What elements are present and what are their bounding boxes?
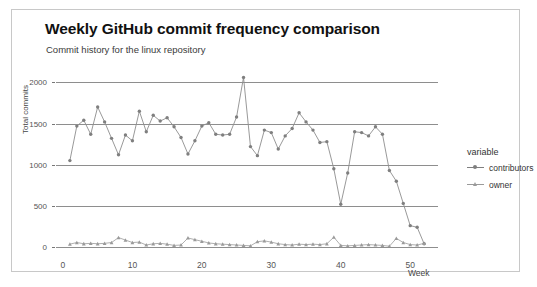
data-point	[290, 127, 293, 130]
data-point	[200, 124, 203, 127]
data-point	[221, 133, 224, 136]
data-point	[179, 136, 182, 139]
data-point	[353, 130, 356, 133]
data-point	[96, 105, 99, 108]
legend-entries: contributorsowner	[467, 163, 537, 190]
y-tick-1500: 1500	[29, 119, 47, 128]
x-tick-10: 10	[128, 260, 137, 270]
legend-marker	[473, 182, 477, 186]
series-line-owner	[70, 237, 424, 246]
series-line-contributors	[70, 77, 424, 243]
data-point	[89, 133, 92, 136]
y-tick-mark	[52, 206, 55, 207]
data-point	[75, 124, 78, 127]
data-point	[214, 133, 217, 136]
legend-item-contributors[interactable]: contributors	[467, 163, 537, 173]
legend-swatch-owner-icon	[467, 180, 484, 190]
data-point	[401, 241, 405, 245]
data-point	[415, 226, 418, 229]
data-point	[242, 76, 245, 79]
data-point	[367, 134, 370, 137]
legend-swatch-contributors-icon	[467, 163, 484, 173]
data-point	[152, 114, 155, 117]
chart-title: Weekly GitHub commit frequency compariso…	[45, 20, 380, 38]
data-point	[360, 131, 363, 134]
data-point	[381, 133, 384, 136]
y-axis-label: Total commits	[21, 70, 30, 150]
legend: variable contributorsowner	[467, 147, 537, 197]
data-point	[117, 153, 120, 156]
y-tick-2000: 2000	[29, 78, 47, 87]
data-point	[82, 119, 85, 122]
gridline	[56, 124, 438, 125]
data-point	[131, 139, 134, 142]
data-point	[145, 130, 148, 133]
data-point	[332, 167, 335, 170]
data-point	[256, 154, 259, 157]
series-lines	[56, 70, 438, 252]
x-tick-30: 30	[267, 260, 276, 270]
data-point	[346, 171, 349, 174]
gridline	[56, 165, 438, 166]
data-point	[394, 237, 398, 241]
legend-marker	[473, 165, 477, 169]
y-tick-mark	[52, 247, 55, 248]
data-point	[193, 139, 196, 142]
data-point	[249, 145, 252, 148]
data-point	[277, 147, 280, 150]
data-point	[318, 141, 321, 144]
data-point	[297, 111, 300, 114]
y-tick-1000: 1000	[29, 160, 47, 169]
y-tick-0: 0	[43, 243, 47, 252]
data-point	[138, 109, 141, 112]
data-point	[172, 125, 175, 128]
data-point	[186, 152, 189, 155]
legend-item-owner[interactable]: owner	[467, 180, 537, 190]
data-point	[263, 128, 266, 131]
y-tick-mark	[52, 124, 55, 125]
data-point	[110, 137, 113, 140]
y-tick-mark	[52, 165, 55, 166]
data-point	[402, 202, 405, 205]
data-point	[228, 133, 231, 136]
data-point	[284, 134, 287, 137]
data-point	[395, 179, 398, 182]
chart-subtitle: Commit history for the linux repository	[46, 44, 205, 55]
x-tick-20: 20	[197, 260, 206, 270]
y-tick-500: 500	[34, 201, 47, 210]
data-point	[409, 224, 412, 227]
data-point	[374, 125, 377, 128]
plot-area	[56, 70, 438, 252]
data-point	[165, 116, 168, 119]
data-point	[235, 115, 238, 118]
data-point	[270, 131, 273, 134]
gridline	[56, 247, 438, 248]
data-point	[117, 236, 121, 240]
data-point	[124, 133, 127, 136]
data-point	[332, 235, 336, 239]
data-point	[311, 128, 314, 131]
data-point	[186, 236, 190, 240]
data-point	[388, 169, 391, 172]
data-point	[68, 159, 71, 162]
x-tick-0: 0	[61, 260, 66, 270]
chart-frame: Weekly GitHub commit frequency compariso…	[11, 9, 520, 272]
gridline	[56, 82, 438, 83]
data-point	[158, 119, 161, 122]
x-tick-40: 40	[336, 260, 345, 270]
x-tick-50: 50	[405, 260, 414, 270]
legend-label: contributors	[489, 163, 533, 173]
gridline	[56, 206, 438, 207]
legend-title: variable	[467, 147, 537, 157]
data-point	[325, 140, 328, 143]
y-tick-mark	[52, 82, 55, 83]
legend-label: owner	[489, 180, 512, 190]
